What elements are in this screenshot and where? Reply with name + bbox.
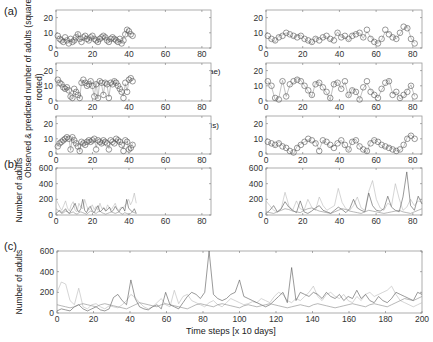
svg-text:10: 10 <box>44 134 54 144</box>
svg-text:60: 60 <box>371 216 381 226</box>
svg-text:600: 600 <box>40 246 54 256</box>
svg-text:0: 0 <box>258 43 263 53</box>
svg-text:60: 60 <box>161 102 171 112</box>
svg-text:20: 20 <box>298 155 308 165</box>
svg-text:40: 40 <box>124 102 134 112</box>
svg-text:140: 140 <box>305 314 319 324</box>
svg-text:60: 60 <box>371 49 381 59</box>
svg-text:0: 0 <box>54 155 59 165</box>
svg-text:20: 20 <box>298 49 308 59</box>
svg-text:40: 40 <box>124 216 134 226</box>
a-left-acalandrae-plot: 02040608001020 <box>44 63 211 112</box>
svg-text:10: 10 <box>44 28 54 38</box>
svg-text:20: 20 <box>298 102 308 112</box>
b-right-plot: 0204060800200400600 <box>249 163 422 226</box>
svg-text:100: 100 <box>232 314 246 324</box>
svg-text:0: 0 <box>258 149 263 159</box>
svg-text:10: 10 <box>254 81 264 91</box>
figure-canvas: 0204060800102002040608001020020406080010… <box>0 0 433 342</box>
svg-text:20: 20 <box>254 66 264 76</box>
svg-text:60: 60 <box>161 49 171 59</box>
svg-text:10: 10 <box>44 81 54 91</box>
svg-text:0: 0 <box>264 216 269 226</box>
svg-text:80: 80 <box>197 102 207 112</box>
a-right-hprosopidis-plot: 02040608001020 <box>254 116 422 165</box>
b-left-plot: 0204060800200400600 <box>39 163 211 226</box>
svg-text:20: 20 <box>44 66 54 76</box>
svg-text:80: 80 <box>408 49 418 59</box>
svg-text:0: 0 <box>264 155 269 165</box>
svg-text:40: 40 <box>124 49 134 59</box>
svg-text:0: 0 <box>258 210 263 220</box>
svg-text:40: 40 <box>125 314 135 324</box>
svg-text:40: 40 <box>335 216 345 226</box>
svg-text:160: 160 <box>342 314 356 324</box>
svg-text:0: 0 <box>264 102 269 112</box>
a-left-hprosopidis-plot: 02040608001020 <box>44 116 211 165</box>
svg-text:20: 20 <box>44 119 54 129</box>
svg-text:80: 80 <box>197 49 207 59</box>
c-plot: 0204060801001201401601802000200400600 <box>40 246 430 324</box>
svg-text:200: 200 <box>40 287 54 297</box>
svg-text:120: 120 <box>269 314 283 324</box>
svg-text:180: 180 <box>378 314 392 324</box>
svg-text:20: 20 <box>254 13 264 23</box>
svg-text:40: 40 <box>124 155 134 165</box>
svg-text:0: 0 <box>258 96 263 106</box>
svg-text:10: 10 <box>254 134 264 144</box>
svg-text:0: 0 <box>264 49 269 59</box>
svg-text:20: 20 <box>88 49 98 59</box>
svg-text:60: 60 <box>162 314 172 324</box>
svg-text:40: 40 <box>335 155 345 165</box>
svg-text:20: 20 <box>88 102 98 112</box>
svg-text:20: 20 <box>88 216 98 226</box>
svg-text:0: 0 <box>55 314 60 324</box>
a-right-acalandrae-plot: 02040608001020 <box>254 63 422 112</box>
svg-text:400: 400 <box>39 179 53 189</box>
svg-text:0: 0 <box>54 216 59 226</box>
svg-text:40: 40 <box>335 102 345 112</box>
svg-text:10: 10 <box>254 28 264 38</box>
svg-text:60: 60 <box>161 155 171 165</box>
svg-text:400: 400 <box>40 267 54 277</box>
svg-text:20: 20 <box>298 216 308 226</box>
svg-text:60: 60 <box>371 155 381 165</box>
svg-text:20: 20 <box>89 314 99 324</box>
svg-text:0: 0 <box>48 149 53 159</box>
svg-text:20: 20 <box>44 13 54 23</box>
svg-text:400: 400 <box>249 179 263 189</box>
svg-text:60: 60 <box>371 102 381 112</box>
svg-text:0: 0 <box>49 308 54 318</box>
svg-text:80: 80 <box>408 155 418 165</box>
svg-text:20: 20 <box>88 155 98 165</box>
svg-text:80: 80 <box>198 314 208 324</box>
svg-text:200: 200 <box>39 194 53 204</box>
svg-text:80: 80 <box>408 216 418 226</box>
svg-text:80: 80 <box>408 102 418 112</box>
svg-text:600: 600 <box>249 163 263 173</box>
svg-text:0: 0 <box>48 43 53 53</box>
svg-text:40: 40 <box>335 49 345 59</box>
svg-text:600: 600 <box>39 163 53 173</box>
a-right-host-plot: 02040608001020 <box>254 10 422 59</box>
svg-text:80: 80 <box>197 155 207 165</box>
svg-text:200: 200 <box>415 314 429 324</box>
svg-text:60: 60 <box>161 216 171 226</box>
svg-text:0: 0 <box>48 210 53 220</box>
svg-text:80: 80 <box>197 216 207 226</box>
svg-text:0: 0 <box>54 49 59 59</box>
svg-text:0: 0 <box>54 102 59 112</box>
a-left-host-plot: 02040608001020 <box>44 10 211 59</box>
svg-text:0: 0 <box>48 96 53 106</box>
svg-text:20: 20 <box>254 119 264 129</box>
svg-text:200: 200 <box>249 194 263 204</box>
